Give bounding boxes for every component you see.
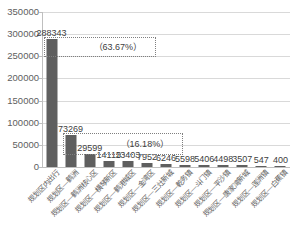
bar-slot: 3507 (233, 12, 252, 167)
y-axis-tick-mark (39, 101, 42, 102)
bar-value-label: 5406 (194, 155, 214, 164)
bar[interactable] (46, 39, 57, 167)
y-axis-tick-mark (39, 34, 42, 35)
bar-value-label: 6246 (156, 154, 176, 163)
y-axis-tick-mark (39, 123, 42, 124)
bar-slot: 288343 (42, 12, 61, 167)
y-axis-tick-label: 150000 (7, 96, 39, 106)
annotation-percent-label: （63.67%） (94, 42, 143, 52)
y-axis-tick-label: 250000 (7, 51, 39, 61)
annotation-percent-label: （16.18%） (121, 139, 170, 149)
bar-chart: 3500003000002500002000001500001000005000… (0, 0, 295, 238)
y-axis-tick-label: 350000 (7, 7, 39, 17)
y-axis-tick-label: 50000 (13, 140, 39, 150)
y-axis-labels: 3500003000002500002000001500001000005000… (0, 12, 39, 167)
y-axis-tick-label: 200000 (7, 73, 39, 83)
y-axis-tick-mark (39, 12, 42, 13)
bar-value-label: 4498 (213, 155, 233, 164)
bar-series: 2883437326929599141131340379526246559854… (42, 12, 290, 167)
bar-slot: 5406 (195, 12, 214, 167)
bar-slot: 4498 (214, 12, 233, 167)
bar-slot: 547 (252, 12, 271, 167)
x-axis-labels: 规划区内出行规划区—鹤洲规划区—鹤洲核心区规划区—横琴新区规划区—鹤港城区规划区… (42, 167, 290, 238)
bar-value-label: 7952 (137, 153, 157, 162)
bar[interactable] (84, 154, 95, 167)
y-axis-tick-mark (39, 56, 42, 57)
y-axis-tick-label: 300000 (7, 29, 39, 39)
y-axis-tick-label: 100000 (7, 118, 39, 128)
bar-value-label: 3507 (232, 155, 252, 164)
y-axis-tick-mark (39, 167, 42, 168)
y-axis-tick-mark (39, 145, 42, 146)
y-axis-tick-mark (39, 78, 42, 79)
bar-value-label: 400 (273, 156, 288, 165)
bar-value-label: 5598 (175, 155, 195, 164)
bar-slot: 400 (271, 12, 290, 167)
bar-value-label: 547 (254, 156, 269, 165)
